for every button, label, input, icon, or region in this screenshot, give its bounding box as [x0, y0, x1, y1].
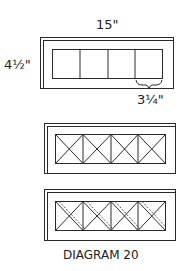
diagram-canvas [0, 0, 191, 271]
double-diagonal-lines [59, 202, 166, 230]
pane-width-brace [136, 80, 162, 89]
frame-back-edge [45, 190, 176, 241]
frame-back-edge [41, 38, 174, 89]
frame-back-edge [45, 124, 176, 174]
diagram-caption: DIAGRAM 20 [63, 249, 139, 261]
frame-x-cross [45, 124, 176, 174]
pane-width-label: 3¼" [137, 93, 164, 106]
width-dimension-label: 15" [96, 18, 119, 31]
frame-plain [41, 38, 174, 90]
height-dimension-label: 4½" [4, 58, 31, 71]
frame-x-cross-double [45, 190, 176, 241]
